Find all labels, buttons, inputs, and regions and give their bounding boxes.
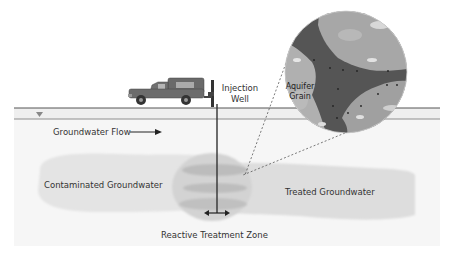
injection-well-label: Injection Well bbox=[218, 83, 262, 105]
treatment-layer-2 bbox=[183, 183, 247, 193]
injection-well-label-line1: Injection bbox=[218, 83, 262, 94]
aquifer-grain-label-line2: Grain bbox=[282, 92, 318, 102]
treatment-layer-3 bbox=[179, 198, 247, 210]
treated-groundwater-label: Treated Groundwater bbox=[285, 187, 375, 198]
pickup-truck-icon bbox=[128, 78, 214, 107]
treatment-layer-1 bbox=[182, 164, 248, 176]
aquifer-grain-label-line1: Aquifer bbox=[282, 82, 318, 92]
aquifer-grain-label: Aquifer Grain bbox=[282, 82, 318, 102]
contaminated-groundwater-label: Contaminated Groundwater bbox=[44, 180, 162, 191]
groundwater-flow-label: Groundwater Flow bbox=[53, 127, 131, 138]
reactive-treatment-zone-label: Reactive Treatment Zone bbox=[161, 230, 268, 241]
injection-well-label-line2: Well bbox=[218, 94, 262, 105]
